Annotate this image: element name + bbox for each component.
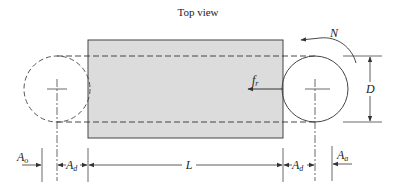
diagram-title: Top view [177, 6, 218, 18]
approach-left-label: Ao [16, 150, 28, 165]
offset-right-label: Ad [291, 158, 304, 173]
approach-right-label: Aa [336, 148, 348, 163]
diameter-label: D [365, 82, 375, 96]
offset-left-label: Ad [65, 158, 78, 173]
rotation-label: N [329, 26, 339, 40]
length-label: L [185, 158, 193, 172]
top-view-diagram: Top view fr N D Ao Ad L Ad Aa [0, 0, 399, 193]
